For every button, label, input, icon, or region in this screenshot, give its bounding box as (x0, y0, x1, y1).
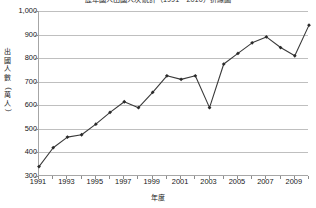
x-axis-tick-label: 2003 (200, 178, 216, 186)
data-point-marker (179, 77, 183, 81)
x-axis-tick-label: 1997 (115, 178, 131, 186)
x-axis-tick-labels: 1991199319951997199920012003200520072009 (38, 178, 308, 189)
x-axis-tick-label: 1995 (87, 178, 103, 186)
y-axis-tick-label: 400 (3, 149, 37, 156)
x-axis-tick-label: 1999 (143, 178, 159, 186)
y-axis-tick-label: 900 (3, 31, 37, 38)
data-point-marker (208, 106, 212, 110)
x-axis-tick-mark (308, 176, 309, 179)
y-axis-tick-label: 1,000 (3, 7, 37, 14)
plot-area (38, 11, 308, 176)
x-axis-tick-label: 2001 (172, 178, 188, 186)
x-axis-tick-label: 2005 (229, 178, 245, 186)
series-line-out-bound-travellers (39, 25, 309, 166)
x-axis-title: 年度 (0, 193, 316, 202)
chart-figure: 歷年國人出國人次統計（1991－2010）折線圖 出國人數（萬人） 300400… (0, 0, 316, 208)
chart-title: 歷年國人出國人次統計（1991－2010）折線圖 (0, 0, 316, 4)
y-axis-tick-labels: 3004005006007008009001,000 (0, 11, 37, 176)
series-markers (37, 23, 311, 168)
x-axis-tick-label: 2007 (257, 178, 273, 186)
y-axis-tick-label: 800 (3, 54, 37, 61)
data-point-marker (307, 23, 311, 27)
data-point-marker (193, 74, 197, 78)
y-axis-tick-label: 600 (3, 102, 37, 109)
y-axis-tick-label: 500 (3, 125, 37, 132)
x-axis-tick-label: 1993 (58, 178, 74, 186)
y-axis-tick-label: 700 (3, 78, 37, 85)
data-series-layer (39, 11, 309, 176)
x-axis-tick-label: 1991 (30, 178, 46, 186)
x-axis-tick-label: 2009 (286, 178, 302, 186)
